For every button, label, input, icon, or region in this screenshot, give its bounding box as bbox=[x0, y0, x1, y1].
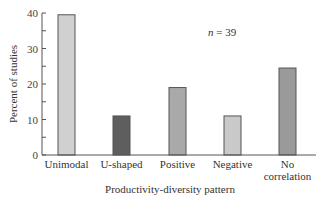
x-category-label: U-shaped bbox=[100, 158, 143, 170]
x-category-label: Negative bbox=[213, 158, 253, 170]
x-category-label: Unimodal bbox=[45, 158, 89, 170]
bar-unimodal bbox=[58, 15, 75, 155]
y-tick-label: 20 bbox=[27, 78, 39, 90]
x-category-label: Positive bbox=[160, 158, 196, 170]
y-tick-label: 30 bbox=[27, 43, 39, 55]
sample-size-annotation: n = 39 bbox=[208, 26, 237, 38]
bar-positive bbox=[169, 88, 186, 155]
y-tick-label: 40 bbox=[27, 7, 39, 19]
y-axis-title: Percent of studies bbox=[7, 45, 19, 123]
bar-negative bbox=[224, 116, 241, 155]
bar-u-shaped bbox=[113, 116, 130, 155]
bars bbox=[58, 15, 296, 155]
y-tick-label: 10 bbox=[27, 114, 39, 126]
bar-chart: 010203040 UnimodalU-shapedPositiveNegati… bbox=[0, 0, 323, 201]
y-tick-label: 0 bbox=[33, 149, 39, 161]
x-axis-title: Productivity-diversity pattern bbox=[105, 183, 235, 195]
x-category-label: correlation bbox=[264, 170, 312, 182]
x-axis: UnimodalU-shapedPositiveNegativeNocorrel… bbox=[42, 155, 316, 182]
x-category-label: No bbox=[281, 158, 295, 170]
bar-no-correlation bbox=[279, 68, 296, 155]
y-axis: 010203040 bbox=[27, 7, 46, 161]
